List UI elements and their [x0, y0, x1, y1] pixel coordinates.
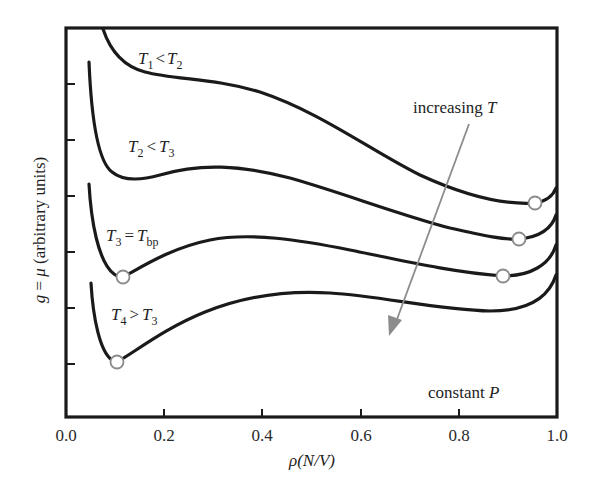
- coexistence-markers: [111, 197, 542, 369]
- x-tick-label: 0.2: [153, 426, 174, 445]
- x-axis-label: ρ(N/V): [288, 451, 335, 470]
- x-tick-label: 0.6: [350, 426, 371, 445]
- x-tick-label: 1.0: [546, 426, 567, 445]
- marker-t4-gas: [111, 356, 124, 369]
- y-axis-equals: =: [30, 277, 49, 295]
- x-tick-label: 0.4: [251, 426, 273, 445]
- marker-t3-gas: [117, 271, 130, 284]
- marker-t3-liquid: [497, 270, 510, 283]
- chart: 0.0 0.2 0.4 0.6 0.8 1.0 ρ(N/V) g = μ (ar…: [0, 0, 600, 488]
- y-axis-mu: μ: [30, 268, 49, 278]
- curve-label-t2: T2<T3: [128, 137, 175, 160]
- curve-label-t3: T3=Tbp: [106, 226, 159, 249]
- marker-t2-liquid: [513, 233, 526, 246]
- y-axis-units: (arbitrary units): [30, 157, 49, 268]
- x-axis-rho: ρ: [288, 451, 297, 470]
- curve-label-t1: T1<T2: [138, 49, 183, 72]
- x-axis-units: (N/V): [297, 451, 335, 470]
- curve-t4: [91, 275, 556, 362]
- y-axis-g: g: [30, 295, 49, 304]
- increasing-t-arrow: [396, 124, 469, 322]
- y-axis-label: g = μ (arbitrary units): [30, 157, 49, 304]
- curve-label-t4: T4>T3: [111, 305, 158, 328]
- annotation-constant-p: constant P: [428, 383, 499, 402]
- plot-frame: [66, 28, 557, 417]
- marker-t1-liquid: [529, 197, 542, 210]
- arrowhead-icon: [388, 315, 402, 336]
- x-tick-label: 0.0: [55, 426, 76, 445]
- x-tick-label: 0.8: [448, 426, 469, 445]
- annotation-increasing-t: increasing T: [413, 98, 498, 117]
- x-tick-labels: 0.0 0.2 0.4 0.6 0.8 1.0: [55, 426, 567, 445]
